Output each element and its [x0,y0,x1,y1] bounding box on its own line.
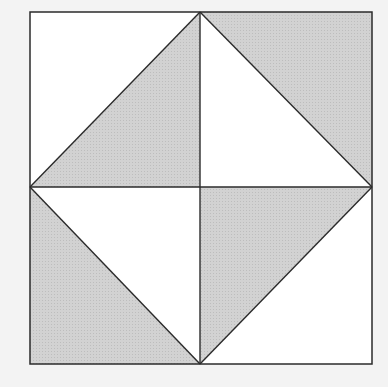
tiling-diagram [0,0,388,387]
